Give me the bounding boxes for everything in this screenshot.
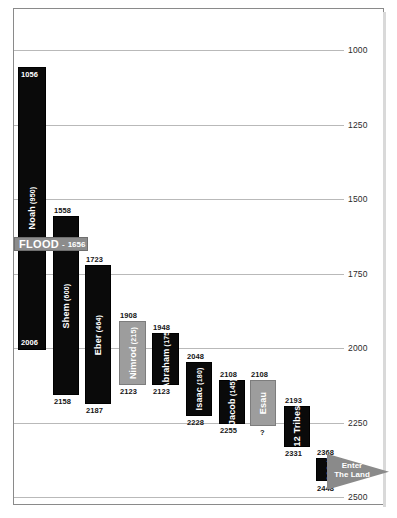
bar-esau[interactable]: Esau [250, 380, 276, 426]
bar-start-year-12-tribes: 2193 [285, 396, 302, 405]
gridline-1250 [14, 125, 344, 126]
bar-end-year-nimrod: 2123 [120, 387, 137, 396]
bar-end-year-isaac: 2228 [187, 418, 204, 427]
bar-label-nimrod: Nimrod (215) [128, 327, 138, 379]
bar-end-year-noah: 2006 [21, 338, 38, 347]
bar-age-label: (215) [130, 327, 137, 347]
bar-start-year-eber: 1723 [86, 255, 103, 264]
flood-banner-separator: - [62, 240, 65, 249]
flood-banner-word: FLOOD [19, 238, 59, 250]
y-tick-label-1000: 1000 [348, 45, 368, 55]
enter-the-land-label: Enter The Land [330, 461, 374, 479]
bar-jacob[interactable]: Jacob (145) [219, 380, 245, 424]
bar-end-year-shem: 2158 [54, 397, 71, 406]
enter-the-land-line1: Enter [330, 461, 374, 470]
bar-label-esau: Esau [258, 392, 268, 414]
bar-age-label: (145) [229, 379, 236, 399]
gridline-1000 [14, 50, 344, 51]
bar-abraham[interactable]: Abraham (175) [152, 333, 179, 385]
bar-start-year-shem: 1558 [54, 206, 71, 215]
bar-label-noah: Noah (950) [27, 187, 37, 230]
bar-12-tribes[interactable]: 12 Tribes [284, 406, 310, 447]
enter-the-land-arrow: Enter The Land [327, 454, 389, 490]
y-tick-label-1250: 1250 [348, 120, 368, 130]
enter-the-land-line2: The Land [330, 470, 374, 479]
bar-start-year-jacob: 2108 [220, 370, 237, 379]
bar-start-year-nimrod: 1908 [120, 311, 137, 320]
bar-start-year-noah: 1056 [21, 70, 38, 79]
y-tick-label-2000: 2000 [348, 343, 368, 353]
gridline-1500 [14, 199, 344, 200]
bar-age-label: (950) [29, 187, 36, 207]
chart-canvas: 1000125015001750200022502500 Noah (950)1… [0, 0, 397, 518]
bar-age-label: (180) [196, 368, 203, 388]
bar-label-abraham: Abraham (175) [161, 329, 171, 389]
bar-age-label: (464) [95, 314, 102, 334]
flood-banner-year: 1656 [68, 240, 86, 249]
bar-label-isaac: Isaac (180) [194, 368, 204, 411]
bar-age-label: (600) [63, 283, 70, 303]
bar-end-year-jacob: 2255 [220, 426, 237, 435]
bar-label-jacob: Jacob (145) [227, 379, 237, 426]
bar-age-label: (175) [163, 329, 170, 349]
bar-end-year-eber: 2187 [86, 406, 103, 415]
flood-banner: FLOOD - 1656 [14, 237, 88, 251]
bar-end-year-abraham: 2123 [153, 387, 170, 396]
bar-nimrod[interactable]: Nimrod (215) [119, 321, 146, 385]
gridline-2500 [14, 497, 344, 498]
bar-label-shem: Shem (600) [61, 283, 71, 328]
bar-label-12-tribes: 12 Tribes [292, 406, 302, 447]
bar-start-year-abraham: 1948 [153, 323, 170, 332]
bar-end-year-12-tribes: 2331 [285, 449, 302, 458]
bar-start-year-isaac: 2048 [187, 352, 204, 361]
y-tick-label-2500: 2500 [348, 492, 368, 502]
y-tick-label-1500: 1500 [348, 194, 368, 204]
bar-label-eber: Eber (464) [93, 314, 103, 354]
bar-isaac[interactable]: Isaac (180) [186, 362, 212, 416]
bar-eber[interactable]: Eber (464) [85, 265, 111, 403]
bar-start-year-esau: 2108 [251, 370, 268, 379]
bar-end-year-esau: ? [260, 428, 265, 437]
y-tick-label-2250: 2250 [348, 418, 368, 428]
y-tick-label-1750: 1750 [348, 269, 368, 279]
bar-noah[interactable]: Noah (950) [18, 67, 46, 350]
